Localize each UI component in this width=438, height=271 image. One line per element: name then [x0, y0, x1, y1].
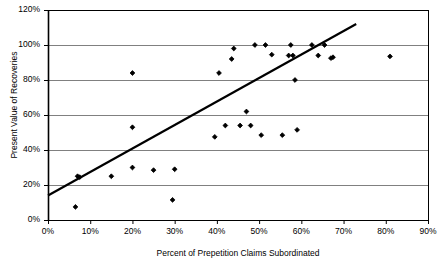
data-point-marker	[316, 53, 321, 58]
data-point-marker	[248, 123, 253, 128]
data-point-marker	[73, 204, 78, 209]
data-point-marker	[288, 43, 293, 48]
data-point-marker	[259, 133, 264, 138]
data-point-marker	[280, 133, 285, 138]
scatter-chart: Present Value of Recoveries Percent of P…	[0, 0, 438, 271]
data-point-marker	[223, 123, 228, 128]
data-point-marker	[295, 127, 300, 132]
data-point-marker	[130, 125, 135, 130]
plot-area	[0, 0, 438, 271]
data-point-marker	[170, 197, 175, 202]
data-point-marker	[212, 134, 217, 139]
data-point-marker	[263, 43, 268, 48]
trend-line	[48, 24, 356, 196]
data-point-marker	[130, 71, 135, 76]
data-point-marker	[229, 57, 234, 62]
data-point-marker	[293, 78, 298, 83]
data-point-marker	[244, 109, 249, 114]
data-point-marker	[172, 167, 177, 172]
data-point-marker	[151, 168, 156, 173]
data-point-marker	[269, 52, 274, 57]
data-point-marker	[217, 71, 222, 76]
data-point-marker	[388, 54, 393, 59]
data-point-marker	[252, 43, 257, 48]
data-point-marker	[130, 165, 135, 170]
data-point-marker	[231, 46, 236, 51]
data-point-marker	[109, 174, 114, 179]
data-point-marker	[238, 123, 243, 128]
